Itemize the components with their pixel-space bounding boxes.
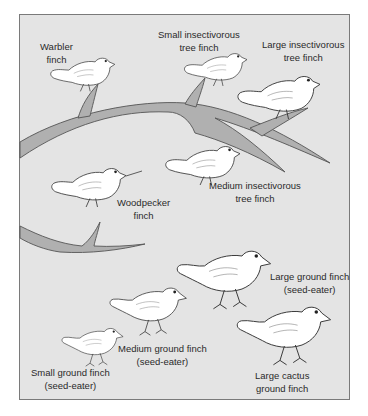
label-medium-ground-finch: Medium ground finch (seed-eater) bbox=[118, 343, 207, 368]
large-cactus-finch-bird bbox=[237, 307, 330, 365]
label-large-ground-finch: Large ground finch (seed-eater) bbox=[270, 271, 349, 296]
small-ground-finch-bird bbox=[62, 328, 123, 366]
large-insectivorous-finch-bird bbox=[238, 76, 320, 119]
large-ground-finch-bird bbox=[177, 251, 270, 309]
woodpecker-finch-bird bbox=[52, 169, 126, 207]
small-insectivorous-finch-bird bbox=[184, 54, 247, 86]
label-medium-insectivorous-tree-finch: Medium insectivorous tree finch bbox=[209, 180, 301, 205]
label-small-insectivorous-tree-finch: Small insectivorous tree finch bbox=[158, 29, 240, 54]
label-large-cactus-ground-finch: Large cactus ground finch bbox=[255, 370, 309, 395]
woodpecker-stick bbox=[126, 171, 142, 176]
medium-ground-finch-bird bbox=[110, 288, 186, 335]
label-warbler-finch: Warbler finch bbox=[40, 41, 73, 66]
label-small-ground-finch: Small ground finch (seed-eater) bbox=[31, 367, 110, 392]
label-woodpecker-finch: Woodpecker finch bbox=[117, 197, 170, 222]
label-large-insectivorous-tree-finch: Large insectivorous tree finch bbox=[262, 39, 344, 64]
